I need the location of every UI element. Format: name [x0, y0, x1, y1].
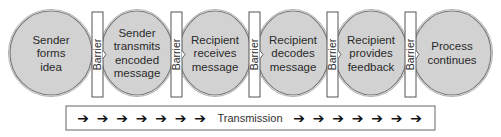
step-label-line: message [192, 61, 239, 73]
barrier: Barrier [248, 12, 263, 97]
arrow-right-icon: ➔ [391, 110, 403, 126]
step-label-line: receives [194, 47, 237, 59]
arrow-right-icon: ➔ [332, 110, 344, 126]
arrow-right-icon: ➔ [352, 110, 364, 126]
arrow-right-icon: ➔ [293, 110, 305, 126]
barrier: Barrier [91, 12, 106, 97]
arrow-right-icon: ➔ [116, 110, 128, 126]
arrow-right-icon: ➔ [77, 110, 89, 126]
process-step: Senderformsidea [9, 10, 94, 97]
barrier: Barrier [170, 12, 185, 97]
step-label-line: Recipient [269, 34, 318, 46]
step-label-line: continues [427, 54, 476, 66]
process-step: Recipientdecodesmessage [256, 10, 331, 97]
process-step: Recipientprovidesfeedback [334, 10, 409, 97]
step-label-line: Process [431, 40, 473, 52]
arrow-right-icon: ➔ [175, 110, 187, 126]
step-label-line: Recipient [347, 34, 396, 46]
process-step: Sendertransmitsencodedmessage [100, 10, 175, 97]
barrier-label: Barrier [170, 38, 182, 70]
barrier-label: Barrier [326, 38, 338, 70]
step-label-line: forms [37, 47, 66, 59]
step-label-line: Sender [118, 27, 155, 39]
barrier-label: Barrier [91, 38, 103, 70]
step-label-line: Recipient [191, 34, 240, 46]
step-label-line: transmits [114, 40, 161, 52]
arrow-right-icon: ➔ [313, 110, 325, 126]
arrow-right-icon: ➔ [136, 110, 148, 126]
step-label-line: message [114, 67, 161, 79]
process-step: Processcontinues [412, 10, 493, 97]
arrow-right-icon: ➔ [410, 110, 422, 126]
arrow-right-icon: ➔ [97, 110, 109, 126]
step-label-line: encoded [115, 54, 159, 66]
step-label-line: idea [40, 61, 62, 73]
arrow-right-icon: ➔ [155, 110, 167, 126]
communication-process-diagram: SenderformsideaSendertransmitsencodedmes… [0, 0, 501, 137]
arrow-right-icon: ➔ [194, 110, 206, 126]
step-label-line: message [270, 61, 317, 73]
barrier: Barrier [326, 12, 341, 97]
barrier: Barrier [404, 12, 419, 97]
transmission-label: Transmission [218, 112, 283, 124]
step-label-line: Sender [32, 34, 69, 46]
barrier-label: Barrier [248, 38, 260, 70]
step-label-line: decodes [271, 47, 315, 59]
barrier-label: Barrier [404, 38, 416, 70]
transmission-bar: ➔➔➔➔➔➔➔ Transmission ➔➔➔➔➔➔➔ [66, 106, 435, 130]
step-label-line: feedback [348, 61, 395, 73]
arrow-right-icon: ➔ [371, 110, 383, 126]
step-label-line: provides [349, 47, 393, 59]
process-step: Recipientreceivesmessage [178, 10, 253, 97]
